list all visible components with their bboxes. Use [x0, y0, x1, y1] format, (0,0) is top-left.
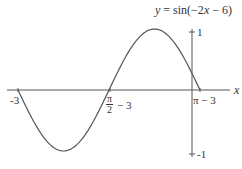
x-tick-label-pi-minus3: π − 3 — [193, 95, 216, 106]
x-tick-label-pi-half: π 2 — [106, 94, 113, 115]
y-tick-label-neg1: -1 — [197, 149, 206, 160]
x-tick-label-neg3: -3 — [10, 95, 19, 106]
title-middle: = sin(−2 — [160, 3, 204, 17]
x-tick-label-minus3: − 3 — [117, 100, 131, 111]
chart-title: y = sin(−2x − 6) — [155, 4, 232, 16]
title-end: − 6) — [209, 3, 232, 17]
x-axis-label: x — [234, 84, 239, 96]
fraction-denominator: 2 — [106, 105, 113, 115]
y-tick-label-1: 1 — [197, 27, 203, 38]
chart-canvas — [0, 0, 242, 169]
